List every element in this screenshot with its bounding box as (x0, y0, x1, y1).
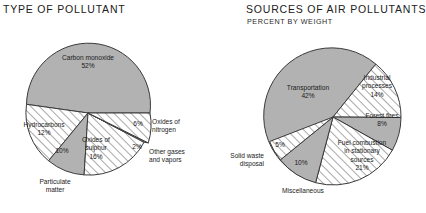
slice-label-hydrocarbons: Hydrocarbons 12% (13, 121, 75, 138)
slice-label-solid-waste-name: Solid waste disposal (208, 152, 264, 169)
slice-label-carbon-monoxide-name: Carbon monoxide (62, 54, 114, 61)
slice-label-oxides-of-sulphur: Oxides of sulphur 16% (72, 136, 120, 161)
slice-label-carbon-monoxide: Carbon monoxide 52% (43, 54, 133, 71)
slice-label-hydrocarbons-name: Hydrocarbons (23, 121, 64, 128)
chart-panel-sources-of-air-pollutants: SOURCES OF AIR POLLUTANTS PERCENT BY WEI… (207, 0, 417, 213)
slice-label-oxides-of-nitrogen-name: Oxides of nitrogen (152, 118, 208, 135)
slice-label-fuel-combustion: Fuel combustion in stationary sources 21… (323, 139, 401, 173)
slice-label-particulate-matter-name: Particulate matter (21, 178, 89, 195)
slice-label-transportation-pct: 42% (301, 92, 314, 99)
slice-label-forest-fires: Forest fires 8% (354, 112, 410, 129)
slice-label-miscellaneous-pct: 10% (289, 159, 313, 167)
slice-label-other-gases-pct: 2% (126, 143, 148, 151)
slice-label-solid-waste-pct: 5% (269, 141, 291, 149)
slice-label-other-gases-name: Other gases and vapors (149, 148, 209, 165)
chart-panel-type-of-pollutant: TYPE OF POLLUTANT Carbon monoxide 52% Hy… (0, 0, 210, 213)
slice-label-industrial-processes: Industrial processes 14% (351, 74, 403, 99)
slice-label-carbon-monoxide-pct: 52% (81, 62, 94, 69)
slice-label-miscellaneous-name: Miscellaneous (266, 187, 340, 195)
slice-label-transportation: Transportation 42% (267, 84, 349, 101)
slice-label-hydrocarbons-pct: 12% (37, 129, 50, 136)
pie-chart-sources-of-air-pollutants (207, 0, 417, 213)
slice-label-transportation-name: Transportation (287, 84, 329, 91)
slice-label-oxides-of-nitrogen-pct: 6% (126, 120, 150, 128)
